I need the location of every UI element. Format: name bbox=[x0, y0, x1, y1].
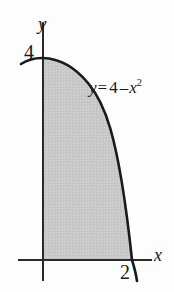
equation-constant: 4 bbox=[108, 78, 119, 97]
equation-minus: – bbox=[119, 78, 130, 97]
y-intercept-tick-label: 4 bbox=[24, 42, 34, 62]
x-axis-label: x bbox=[154, 246, 162, 264]
equation-lhs: y bbox=[89, 78, 97, 97]
equation-exponent: 2 bbox=[137, 77, 142, 88]
equation-variable: x bbox=[129, 78, 137, 97]
parabola-figure: y x 4 2 y=4–x2 bbox=[0, 0, 174, 292]
x-intercept-tick-label: 2 bbox=[120, 262, 130, 282]
equation-equals: = bbox=[97, 78, 109, 97]
y-axis-label: y bbox=[38, 14, 46, 33]
curve-equation-label: y=4–x2 bbox=[89, 79, 142, 96]
